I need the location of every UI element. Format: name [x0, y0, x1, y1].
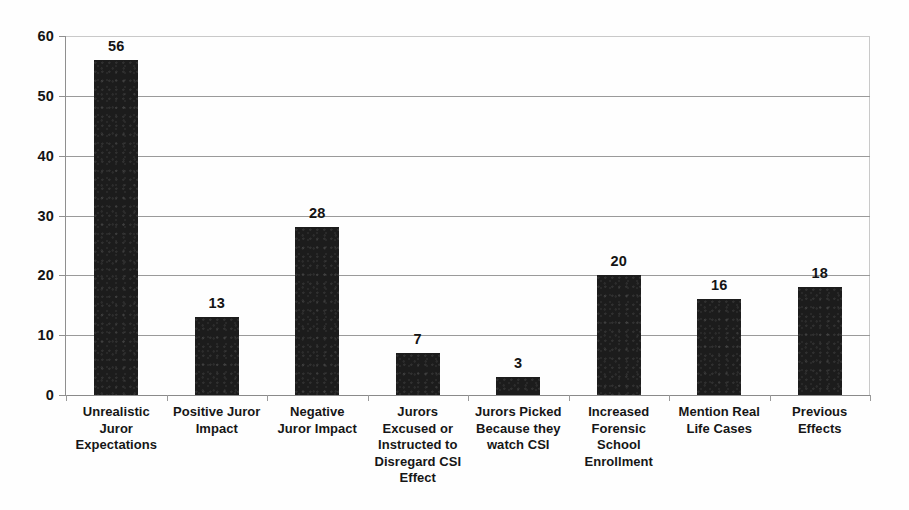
- y-axis-tick-30: [59, 216, 66, 217]
- bar-value-label: 56: [76, 39, 156, 54]
- gridline-10: [66, 335, 870, 336]
- category-label-line: Unrealistic: [68, 404, 165, 421]
- y-axis-label-0: 0: [0, 388, 54, 403]
- x-axis-category-label: Mention RealLife Cases: [671, 404, 768, 437]
- y-axis-tick-20: [59, 275, 66, 276]
- bar-value-label: 16: [679, 278, 759, 293]
- bar[interactable]: [295, 227, 339, 395]
- y-axis-tick-10: [59, 335, 66, 336]
- y-axis-label-30: 30: [0, 209, 54, 224]
- category-label-line: Mention Real: [671, 404, 768, 421]
- bar-chart: 0102030405060 56UnrealisticJurorExpectat…: [0, 0, 909, 510]
- x-axis-category-label: IncreasedForensicSchoolEnrollment: [571, 404, 668, 470]
- y-axis-label-50: 50: [0, 89, 54, 104]
- category-label-line: Instructed to: [370, 437, 467, 454]
- plot-area: [66, 36, 870, 395]
- y-axis-tick-60: [59, 36, 66, 37]
- category-label-line: Juror: [68, 421, 165, 438]
- x-axis-tick: [770, 395, 771, 401]
- category-label-line: Excused or: [370, 421, 467, 438]
- x-axis-tick: [669, 395, 670, 401]
- x-axis-tick: [569, 395, 570, 401]
- bar-value-label: 13: [177, 296, 257, 311]
- gridline-40: [66, 156, 870, 157]
- x-axis-tick: [267, 395, 268, 401]
- category-label-line: Previous: [772, 404, 869, 421]
- bar[interactable]: [396, 353, 440, 395]
- x-axis-category-label: Positive JurorImpact: [169, 404, 266, 437]
- category-label-line: Effect: [370, 470, 467, 487]
- gridline-20: [66, 275, 870, 276]
- category-label-line: Jurors Picked: [470, 404, 567, 421]
- gridline-30: [66, 216, 870, 217]
- category-label-line: Jurors: [370, 404, 467, 421]
- category-label-line: Negative: [269, 404, 366, 421]
- category-label-line: Disregard CSI: [370, 454, 467, 471]
- bar[interactable]: [798, 287, 842, 395]
- y-axis-label-10: 10: [0, 328, 54, 343]
- category-label-line: Forensic: [571, 421, 668, 438]
- category-label-line: Life Cases: [671, 421, 768, 438]
- bar[interactable]: [496, 377, 540, 395]
- gridline-60: [66, 36, 870, 37]
- y-axis-label-20: 20: [0, 268, 54, 283]
- x-axis-tick: [368, 395, 369, 401]
- bar[interactable]: [94, 60, 138, 395]
- category-label-line: Juror Impact: [269, 421, 366, 438]
- x-axis-category-label: Jurors PickedBecause theywatch CSI: [470, 404, 567, 454]
- x-axis-category-label: UnrealisticJurorExpectations: [68, 404, 165, 454]
- bar[interactable]: [697, 299, 741, 395]
- bar-value-label: 18: [780, 266, 860, 281]
- category-label-line: Increased: [571, 404, 668, 421]
- category-label-line: watch CSI: [470, 437, 567, 454]
- bar-value-label: 20: [579, 254, 659, 269]
- x-axis-tick: [66, 395, 67, 401]
- y-axis-label-60: 60: [0, 29, 54, 44]
- x-axis-tick: [870, 395, 871, 401]
- x-axis-category-label: JurorsExcused orInstructed toDisregard C…: [370, 404, 467, 487]
- bar[interactable]: [597, 275, 641, 395]
- y-axis-tick-0: [59, 395, 66, 396]
- y-axis-tick-40: [59, 156, 66, 157]
- category-label-line: School: [571, 437, 668, 454]
- bar[interactable]: [195, 317, 239, 395]
- category-label-line: Enrollment: [571, 454, 668, 471]
- bar-value-label: 28: [277, 206, 357, 221]
- y-axis-label-40: 40: [0, 149, 54, 164]
- category-label-line: Effects: [772, 421, 869, 438]
- category-label-line: Positive Juror: [169, 404, 266, 421]
- x-axis-category-label: PreviousEffects: [772, 404, 869, 437]
- bar-value-label: 7: [378, 332, 458, 347]
- bar-value-label: 3: [478, 356, 558, 371]
- x-axis-tick: [167, 395, 168, 401]
- y-axis-tick-50: [59, 96, 66, 97]
- gridline-50: [66, 96, 870, 97]
- x-axis-tick: [468, 395, 469, 401]
- category-label-line: Impact: [169, 421, 266, 438]
- category-label-line: Because they: [470, 421, 567, 438]
- category-label-line: Expectations: [68, 437, 165, 454]
- x-axis-category-label: NegativeJuror Impact: [269, 404, 366, 437]
